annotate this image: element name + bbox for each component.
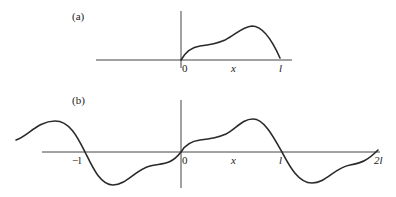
panel-b-label: (b) (72, 94, 85, 107)
panel-b-tick-x: x (230, 154, 236, 166)
figure: (a) 0 x l (b) −l 0 x l 2l (0, 0, 396, 197)
panel-a-tick-origin: 0 (182, 62, 188, 74)
panel-b-tick-2l: 2l (374, 154, 383, 166)
panel-b: (b) −l 0 x l 2l (16, 94, 383, 188)
panel-a-tick-l: l (279, 62, 282, 74)
panel-b-tick-neg-l: −l (72, 154, 81, 166)
panel-b-tick-origin: 0 (182, 154, 188, 166)
panel-b-tick-l: l (279, 154, 282, 166)
panel-a-curve (181, 26, 280, 60)
panel-a-tick-x: x (230, 62, 236, 74)
panel-a-label: (a) (72, 10, 85, 23)
panel-a: (a) 0 x l (72, 10, 292, 74)
